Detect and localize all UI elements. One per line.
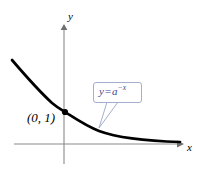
point-marker <box>62 109 68 115</box>
y-axis-label: y <box>68 11 73 22</box>
x-axis-label: x <box>187 142 192 153</box>
equation-exponent: −x <box>118 83 126 92</box>
point-coordinate-label: (0, 1) <box>27 111 55 124</box>
exponential-decay-figure: y x (0, 1) y=a−x <box>0 0 202 177</box>
y-axis-arrowhead <box>61 24 68 30</box>
callout-equation-label: y=a−x <box>99 86 126 97</box>
callout-tail <box>99 102 118 128</box>
equation-operator: = <box>104 85 112 97</box>
